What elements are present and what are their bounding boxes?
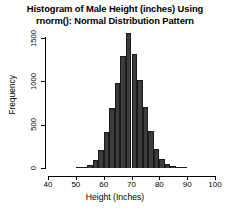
y-axis-tick-label-text: 1500 — [29, 30, 38, 47]
histogram-figure: Histogram of Male Height (inches) Using … — [0, 0, 230, 211]
x-axis-tick-label: 50 — [64, 180, 88, 189]
y-axis-tick-label-text: 1000 — [29, 73, 38, 90]
histogram-bar — [182, 167, 188, 168]
plot-area — [48, 30, 215, 168]
y-axis-label-text: Frequency — [7, 75, 17, 115]
x-axis-tick-label: 70 — [120, 180, 144, 189]
y-axis-tick — [41, 168, 45, 169]
chart-title-line-2: rnorm(): Normal Distribution Pattern — [0, 15, 230, 27]
x-axis-label: Height (Inches) — [0, 192, 230, 202]
y-axis-tick — [41, 38, 45, 39]
y-axis-tick — [41, 81, 45, 82]
y-axis-tick-label-text: 500 — [29, 118, 38, 131]
x-axis-tick-label: 40 — [36, 180, 60, 189]
x-axis-tick-label: 80 — [147, 180, 171, 189]
chart-title-line-1: Histogram of Male Height (inches) Using — [0, 3, 230, 15]
x-axis-tick-label: 90 — [175, 180, 199, 189]
x-axis-tick-label: 100 — [203, 180, 227, 189]
y-axis-tick — [41, 125, 45, 126]
y-axis-line — [45, 37, 46, 169]
y-axis-tick-label-text: 0 — [29, 166, 38, 170]
chart-title: Histogram of Male Height (inches) Using … — [0, 3, 230, 26]
x-axis-tick-label: 60 — [92, 180, 116, 189]
y-axis-label: Frequency — [6, 55, 18, 135]
histogram-bars — [48, 30, 215, 168]
